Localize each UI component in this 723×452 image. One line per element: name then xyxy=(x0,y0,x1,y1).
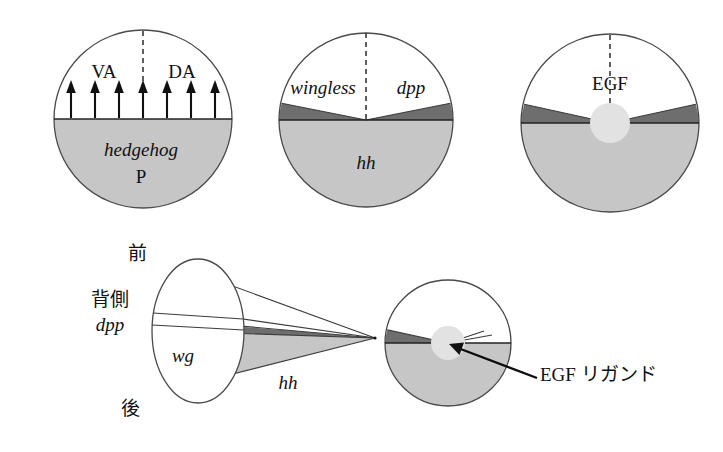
label-dorsal-anterior: DA xyxy=(168,61,196,82)
panel-egf-ligand-disc: EGF リガンド xyxy=(385,280,657,406)
label-wingless: wingless xyxy=(290,77,355,98)
label-wg-cone: wg xyxy=(172,345,194,366)
panel-egf-disc: EGF xyxy=(521,34,699,212)
label-dorsal: 背側 xyxy=(91,288,129,310)
label-dpp-cone: dpp xyxy=(96,314,125,335)
label-anterior: 前 xyxy=(128,242,147,264)
figure-canvas: VA DA hedgehog P wingless dpp xyxy=(0,0,723,452)
label-egf: EGF xyxy=(592,73,628,94)
panel-hedgehog-disc: VA DA hedgehog P xyxy=(54,30,232,208)
label-ventral-anterior: VA xyxy=(92,61,117,82)
figure-root: VA DA hedgehog P wingless dpp xyxy=(0,0,723,452)
panel-cone-projection: 前 背側 dpp wg 後 hh xyxy=(91,242,377,419)
label-posterior-compartment: P xyxy=(136,166,147,187)
posterior-compartment-fill xyxy=(54,119,232,208)
panel-wingless-dpp-hh-disc: wingless dpp hh xyxy=(279,33,453,207)
egf-source-blob xyxy=(590,103,630,143)
label-hh-cone: hh xyxy=(279,372,298,393)
label-hh: hh xyxy=(357,152,376,173)
label-posterior: 後 xyxy=(121,397,140,419)
cone-apex-point xyxy=(373,336,376,339)
label-dpp: dpp xyxy=(397,77,426,98)
label-egf-ligand-callout: EGF リガンド xyxy=(540,364,657,385)
label-hedgehog: hedgehog xyxy=(104,139,178,160)
